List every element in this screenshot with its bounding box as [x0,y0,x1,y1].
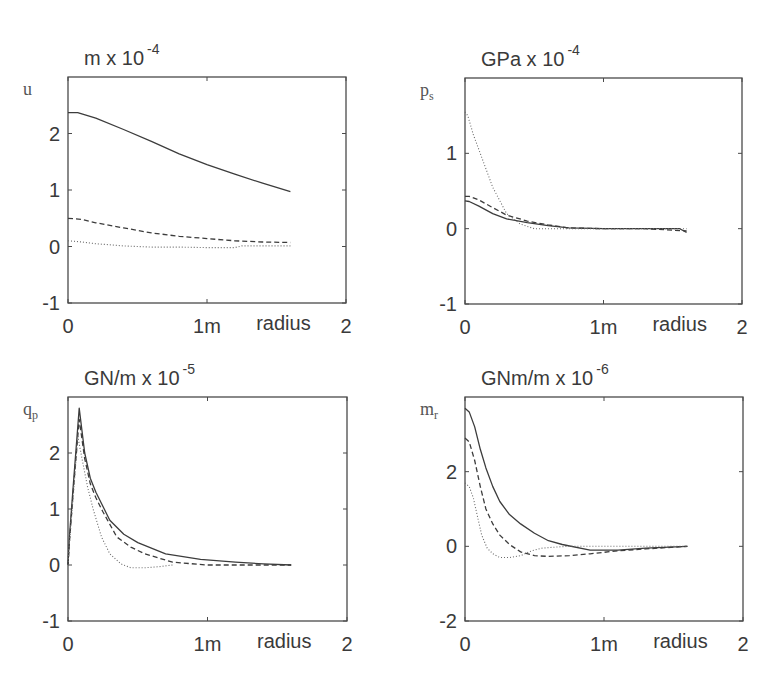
panel-title: GNm/m x 10-6 [481,361,609,389]
x-tick-label: 2 [737,633,748,655]
x-axis-label: radius [653,630,707,652]
x-tick-label: 2 [341,633,352,655]
y-axis-label-subscript: r [434,408,438,422]
y-axis-label-subscript: p [32,408,38,422]
x-tick-label: 1m [590,633,618,655]
x-tick-label: 0 [62,315,73,337]
y-tick-label: 0 [49,236,60,258]
axes-frame [465,397,743,621]
title-exponent: -4 [567,42,580,58]
title-exponent: -6 [596,361,609,377]
title-exponent: -4 [147,41,160,57]
y-axis-label: mr [420,399,438,422]
x-axis-label: radius [257,630,311,652]
y-tick-label: -1 [439,293,457,315]
x-tick-label: 2 [340,315,351,337]
series-dotted [68,436,173,568]
y-tick-label: -1 [42,292,60,314]
series-solid [68,408,291,565]
y-axis-label: ps [420,80,434,103]
y-axis-label: qp [23,399,38,422]
x-axis-label: radius [256,312,310,334]
x-tick-label: 0 [459,633,470,655]
axes-frame [68,397,347,621]
subplot-ps-pressure: -10101m2radiusGPa x 10-4ps [420,42,748,338]
x-tick-label: 1m [590,316,618,338]
y-tick-label: 0 [49,554,60,576]
figure: -101201m2radiusm x 10-4u -10101m2radiusG… [0,0,777,689]
y-tick-label: 1 [49,179,60,201]
x-tick-label: 1m [193,315,221,337]
x-tick-label: 0 [459,316,470,338]
title-exponent: -5 [183,361,196,377]
y-tick-label: 1 [446,142,457,164]
y-tick-label: 1 [49,498,60,520]
subplot-qp-shear: -101201m2radiusGN/m x 10-5qp [23,361,353,655]
y-tick-label: 0 [446,218,457,240]
panel-title: m x 10-4 [84,41,160,69]
subplot-mr-moment: -20201m2radiusGNm/m x 10-6mr [420,361,749,655]
subplot-u-displacement: -101201m2radiusm x 10-4u [23,41,352,337]
axes-frame [68,77,346,303]
panel-title: GN/m x 10-5 [84,361,195,389]
y-tick-label: -1 [42,610,60,632]
x-tick-label: 2 [736,316,747,338]
y-tick-label: 2 [49,442,60,464]
x-axis-label: radius [652,313,706,335]
series-solid [465,408,687,550]
series-dotted [68,241,290,248]
axes-frame [465,78,742,304]
x-tick-label: 1m [194,633,222,655]
y-axis-label: u [23,79,32,99]
series-dashed [68,218,290,242]
y-tick-label: 2 [49,123,60,145]
y-tick-label: 2 [446,461,457,483]
y-tick-label: -2 [439,610,457,632]
series-dashed [68,419,291,565]
panel-title: GPa x 10-4 [481,42,580,70]
series-dotted [465,483,687,558]
series-solid [68,113,290,192]
y-tick-label: 0 [446,535,457,557]
x-tick-label: 0 [62,633,73,655]
series-dashed [465,196,687,231]
y-axis-label-subscript: s [429,89,434,103]
